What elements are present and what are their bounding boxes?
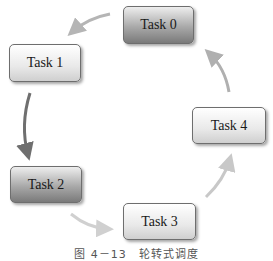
task-2-node: Task 2: [10, 166, 82, 203]
task-4-label: Task 4: [211, 118, 248, 134]
arrow-task3-to-task4: [206, 159, 230, 197]
task-0-label: Task 0: [140, 17, 177, 33]
task-1-node: Task 1: [9, 44, 81, 82]
task-2-label: Task 2: [28, 177, 65, 193]
arrow-task0-to-task1: [72, 14, 110, 32]
arrow-task4-to-task0: [209, 53, 229, 92]
task-4-node: Task 4: [192, 107, 266, 144]
arrow-task1-to-task2: [24, 93, 30, 155]
arrow-task2-to-task3: [71, 214, 108, 229]
task-0-node: Task 0: [123, 6, 194, 44]
task-1-label: Task 1: [27, 55, 64, 71]
figure-caption: 图 4－13 轮转式调度: [0, 245, 273, 261]
task-3-node: Task 3: [123, 203, 196, 240]
task-3-label: Task 3: [141, 214, 178, 230]
